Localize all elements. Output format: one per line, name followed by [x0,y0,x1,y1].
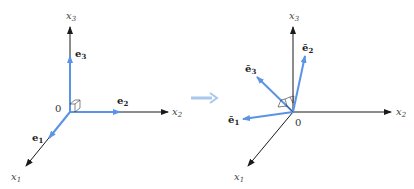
right-basis-e-bar-3-label: ē3 [245,63,256,76]
right-basis-e-bar-1-label: ē1 [228,114,239,127]
right-basis-e-bar-1 [243,112,293,119]
left-axis-x3-label: x3 [66,10,77,23]
left-basis-e2-label: e2 [117,95,128,108]
left-axis-x2-label: x2 [172,106,183,119]
left-basis-e1-label: e1 [32,132,43,145]
right-axis-x3-label: x3 [289,10,300,23]
right-axis-x2-label: x2 [396,106,407,119]
right-axis-x1-label: x1 [234,171,244,184]
left-basis-e3-label: e3 [75,48,86,61]
left-frame: 0 x3 x2 x1 e3 e2 e1 [11,10,183,184]
right-axis-x1 [248,112,293,166]
right-basis-e-bar-2 [293,56,305,112]
left-origin-label: 0 [55,103,61,114]
left-right-angle-marker [70,100,80,112]
right-origin-label: 0 [295,117,301,128]
right-basis-e-bar-2-label: ē2 [302,42,313,55]
transition-arrow-icon [191,93,217,103]
coordinate-rotation-diagram: 0 x3 x2 x1 e3 e2 e1 0 x3 x2 x1 ē2 ē3 ē1 [0,0,414,189]
right-frame: 0 x3 x2 x1 ē2 ē3 ē1 [228,10,407,184]
left-basis-e1 [49,112,70,138]
left-axis-x1-label: x1 [11,171,21,184]
